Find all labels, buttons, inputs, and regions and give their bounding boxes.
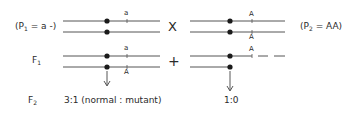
f2-generation-label: F2: [28, 95, 37, 106]
f2-right-ratio: 1:0: [224, 95, 238, 105]
p1-allele-top: a: [124, 9, 128, 17]
centromere-dot: [227, 18, 232, 23]
f2-left-ratio: 3:1 (normal : mutant): [64, 95, 161, 105]
centromere-dot: [104, 53, 109, 58]
f1-left-chromosomes: [63, 53, 160, 69]
centromere-dot: [104, 29, 109, 34]
p1-genotype-label: (P1 = a -): [15, 21, 56, 32]
down-arrow-right: [227, 71, 233, 91]
centromere-dot: [104, 18, 109, 23]
f1-left-allele-top: a: [124, 44, 128, 52]
f1-right-allele-top: A: [249, 45, 254, 53]
centromere-dot: [227, 29, 232, 34]
centromere-dot: [104, 64, 109, 69]
f1-left-allele-bottom: A: [124, 68, 129, 76]
cross-symbol: X: [168, 19, 177, 34]
f1-generation-label: F1: [32, 55, 41, 66]
down-arrow-left: [104, 71, 110, 86]
centromere-dot: [227, 64, 232, 69]
plus-symbol: +: [168, 53, 180, 69]
centromere-dot: [227, 53, 232, 58]
p2-chromosomes: [190, 18, 285, 34]
p2-allele-top: A: [249, 10, 254, 18]
p2-genotype-label: (P2 = AA): [300, 21, 342, 32]
p2-allele-bottom: A: [249, 33, 254, 41]
p1-chromosomes: [63, 18, 160, 34]
f1-right-chromosomes: [190, 53, 285, 69]
